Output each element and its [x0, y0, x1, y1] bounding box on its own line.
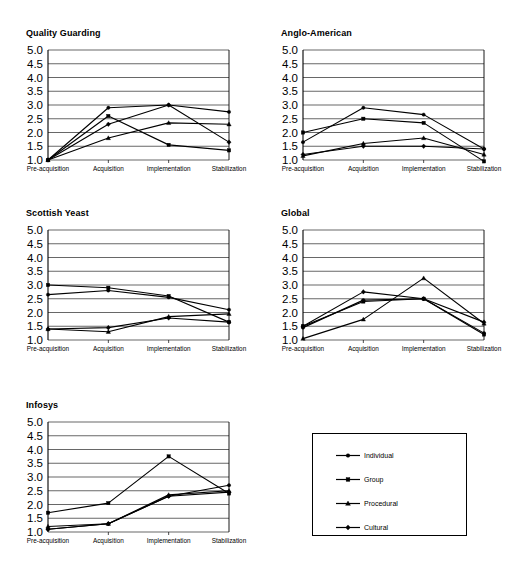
x-tick-label: Pre-acquisition — [27, 165, 70, 173]
data-point-diamond — [167, 103, 171, 108]
x-axis-ticks — [108, 160, 168, 163]
data-point-square — [362, 300, 365, 303]
data-point-square — [167, 294, 170, 297]
x-axis-tick-labels: Pre-acquisitionAcquisitionImplementation… — [27, 165, 247, 173]
y-axis-tick-labels: 5.04.54.03.53.02.52.01.51.0 — [282, 224, 298, 346]
data-point-square — [422, 121, 425, 124]
data-point-triangle — [422, 276, 426, 280]
x-tick-label: Pre-acquisition — [282, 165, 325, 173]
y-tick-label: 4.5 — [27, 430, 43, 442]
legend-item-cultural[interactable]: Cultural — [335, 522, 388, 533]
x-axis-tick-labels: Pre-acquisitionAcquisitionImplementation… — [27, 537, 247, 545]
x-tick-label: Acquisition — [93, 345, 124, 353]
series-group — [301, 117, 485, 163]
chart-plot-area: 5.04.54.03.53.02.52.01.51.0Pre-acquisiti… — [0, 222, 253, 362]
data-point-diamond — [227, 140, 231, 145]
chart-panel-infosys: Infosys 5.04.54.03.53.02.52.01.51.0Pre-a… — [0, 400, 253, 554]
y-tick-label: 4.0 — [27, 72, 43, 84]
y-tick-label: 2.0 — [27, 307, 43, 319]
y-tick-label: 2.0 — [282, 307, 298, 319]
y-tick-label: 5.0 — [282, 44, 298, 56]
y-tick-label: 2.5 — [27, 485, 43, 497]
y-tick-label: 1.5 — [282, 140, 298, 152]
data-point-circle — [301, 140, 304, 143]
legend-item-group[interactable]: Group — [335, 474, 383, 485]
y-tick-label: 3.0 — [27, 99, 43, 111]
square-icon — [335, 474, 361, 485]
data-point-diamond — [106, 122, 110, 127]
y-tick-label: 2.5 — [27, 293, 43, 305]
series-procedural — [301, 276, 486, 340]
x-tick-label: Stabilization — [212, 165, 247, 172]
chart-title: Quality Guarding — [26, 28, 253, 38]
series-individual — [301, 106, 485, 151]
y-tick-label: 4.0 — [27, 252, 43, 264]
chart-title: Infosys — [26, 400, 253, 410]
gridlines — [48, 230, 229, 340]
y-tick-label: 3.5 — [27, 457, 43, 469]
y-tick-label: 3.5 — [282, 265, 298, 277]
data-point-circle — [362, 106, 365, 109]
x-tick-label: Pre-acquisition — [27, 345, 70, 353]
line-chart: 5.04.54.03.53.02.52.01.51.0Pre-acquisiti… — [0, 222, 253, 362]
chart-plot-area: 5.04.54.03.53.02.52.01.51.0Pre-acquisiti… — [255, 42, 506, 182]
y-tick-label: 5.0 — [27, 416, 43, 428]
y-tick-label: 2.0 — [282, 127, 298, 139]
legend-item-label: Procedural — [364, 500, 398, 507]
x-tick-label: Stabilization — [467, 345, 502, 352]
data-point-square — [107, 114, 110, 117]
x-tick-label: Acquisition — [348, 345, 379, 353]
y-axis-tick-labels: 5.04.54.03.53.02.52.01.51.0 — [27, 416, 43, 538]
y-tick-label: 3.0 — [282, 99, 298, 111]
x-tick-label: Acquisition — [93, 165, 124, 173]
x-tick-label: Acquisition — [93, 537, 124, 545]
x-axis-ticks — [363, 340, 423, 343]
x-axis-ticks — [363, 160, 423, 163]
data-point-diamond — [422, 144, 426, 149]
chart-plot-area: 5.04.54.03.53.02.52.01.51.0Pre-acquisiti… — [0, 42, 253, 182]
y-tick-label: 4.0 — [27, 444, 43, 456]
chart-panel-scottish-yeast: Scottish Yeast 5.04.54.03.53.02.52.01.51… — [0, 208, 253, 362]
y-tick-label: 1.5 — [282, 320, 298, 332]
x-tick-label: Implementation — [147, 537, 191, 545]
data-point-circle — [227, 308, 230, 311]
y-tick-label: 2.0 — [27, 127, 43, 139]
y-axis-tick-labels: 5.04.54.03.53.02.52.01.51.0 — [282, 44, 298, 166]
chart-title: Scottish Yeast — [26, 208, 253, 218]
y-tick-label: 1.5 — [27, 140, 43, 152]
legend-item-procedural[interactable]: Procedural — [335, 498, 398, 509]
series-cultural — [46, 316, 231, 332]
data-point-diamond — [482, 147, 486, 152]
x-tick-label: Implementation — [147, 345, 191, 353]
y-tick-label: 3.5 — [27, 265, 43, 277]
series-legend: IndividualGroupProceduralCultural — [312, 433, 467, 536]
x-tick-label: Pre-acquisition — [282, 345, 325, 353]
legend-item-individual[interactable]: Individual — [335, 450, 394, 461]
y-tick-label: 4.5 — [27, 238, 43, 250]
data-point-diamond — [361, 290, 365, 295]
x-tick-label: Stabilization — [212, 345, 247, 352]
x-axis-ticks — [108, 340, 168, 343]
x-tick-label: Stabilization — [467, 165, 502, 172]
y-tick-label: 3.0 — [282, 279, 298, 291]
y-tick-label: 4.5 — [282, 58, 298, 70]
diamond-icon — [335, 522, 361, 533]
x-tick-label: Pre-acquisition — [27, 537, 70, 545]
triangle-icon — [335, 498, 361, 509]
line-chart: 5.04.54.03.53.02.52.01.51.0Pre-acquisiti… — [255, 42, 506, 182]
chart-title: Anglo-American — [281, 28, 506, 38]
line-chart: 5.04.54.03.53.02.52.01.51.0Pre-acquisiti… — [0, 42, 253, 182]
y-axis-tick-labels: 5.04.54.03.53.02.52.01.51.0 — [27, 44, 43, 166]
series-group — [46, 455, 230, 515]
series-group — [46, 283, 230, 323]
y-tick-label: 5.0 — [27, 224, 43, 236]
legend-item-label: Cultural — [364, 524, 388, 531]
y-tick-label: 4.5 — [27, 58, 43, 70]
data-point-square — [107, 501, 110, 504]
x-axis-ticks — [108, 532, 168, 535]
chart-panel-global: Global 5.04.54.03.53.02.52.01.51.0Pre-ac… — [255, 208, 506, 362]
data-point-circle — [422, 113, 425, 116]
data-point-square — [362, 117, 365, 120]
y-tick-label: 4.5 — [282, 238, 298, 250]
series-cultural — [301, 290, 486, 329]
